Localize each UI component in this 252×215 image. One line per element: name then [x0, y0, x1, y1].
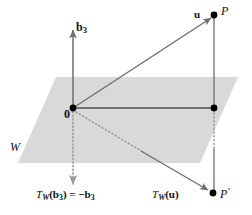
point-p-dot: [211, 12, 218, 19]
point-p-label: P: [221, 5, 228, 17]
basis-vector-b3-label: b3: [76, 21, 87, 35]
origin-label: 0: [64, 108, 70, 120]
point-p-prime-dot: [210, 190, 217, 197]
vector-u-label: u: [194, 9, 200, 20]
vector-reflection-figure: b3 u P 0 W TW(b3) = −b3 TW(u) P′: [0, 0, 252, 215]
plane-w-polygon: [18, 77, 238, 163]
origin-dot: [70, 105, 77, 112]
reflection-of-b3-equation: TW(b3) = −b3: [36, 189, 95, 202]
plane-w-label: W: [10, 141, 20, 153]
point-p-prime-label: P′: [220, 186, 230, 200]
figure-canvas: [0, 0, 252, 215]
reflection-of-u-label: TW(u): [152, 189, 179, 202]
point-p-projection-dot: [211, 105, 218, 112]
